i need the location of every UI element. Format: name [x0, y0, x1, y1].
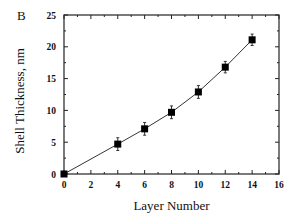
- y-tick-label: 10: [47, 106, 57, 116]
- chart-canvas: 02468101214160510152025: [0, 0, 297, 224]
- x-tick-label: 14: [247, 180, 257, 190]
- data-point-square-marker: [114, 141, 121, 148]
- x-tick-label: 10: [194, 180, 204, 190]
- y-tick-label: 25: [47, 11, 57, 21]
- data-point-square-marker: [195, 88, 202, 95]
- y-tick-label: 15: [47, 74, 57, 84]
- x-tick-label: 0: [62, 180, 67, 190]
- data-point-square-marker: [61, 171, 68, 178]
- x-tick-label: 4: [115, 180, 120, 190]
- x-tick-label: 8: [169, 180, 174, 190]
- data-line: [64, 40, 252, 174]
- data-point-square-marker: [249, 36, 256, 43]
- axis-tick-labels: 02468101214160510152025: [47, 11, 285, 191]
- x-tick-label: 16: [274, 180, 284, 190]
- data-series: [61, 34, 256, 177]
- data-point-square-marker: [222, 64, 229, 71]
- y-tick-label: 20: [47, 42, 57, 52]
- axis-ticks: [64, 15, 279, 174]
- y-tick-label: 0: [51, 170, 56, 180]
- data-point-square-marker: [168, 109, 175, 116]
- x-axis-label: Layer Number: [64, 198, 279, 214]
- y-tick-label: 5: [51, 138, 56, 148]
- x-tick-label: 12: [221, 180, 231, 190]
- plot-axes: [64, 15, 279, 174]
- plot-frame: [64, 15, 279, 174]
- x-tick-label: 6: [142, 180, 147, 190]
- x-tick-label: 2: [89, 180, 94, 190]
- data-point-square-marker: [141, 125, 148, 132]
